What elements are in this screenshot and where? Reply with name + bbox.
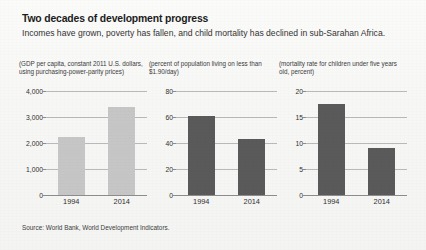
y-axis-mortality: 05101520	[279, 91, 305, 195]
chart-panel-gdp: (GDP per capita, constant 2011 U.S. doll…	[19, 60, 149, 218]
x-tick-label: 2014	[114, 197, 130, 206]
y-tick-mark	[43, 195, 46, 196]
y-tick-label: 3,000	[26, 114, 43, 121]
y-tick-label: 15	[295, 114, 303, 121]
x-tick-label: 1994	[63, 197, 79, 206]
x-axis-gdp: 19942014	[46, 197, 147, 211]
figure-title: Two decades of development progress	[22, 13, 208, 24]
y-tick-mark	[173, 195, 176, 196]
chart-panels: (GDP per capita, constant 2011 U.S. doll…	[19, 60, 411, 218]
y-axis-poverty: 020406080	[149, 91, 175, 195]
bars-mortality	[306, 91, 407, 195]
y-tick-label: 40	[165, 140, 173, 147]
y-tick-label: 20	[295, 88, 303, 95]
x-axis-line	[176, 195, 277, 196]
x-axis-line	[46, 195, 147, 196]
figure-container: Two decades of development progress Inco…	[0, 0, 426, 250]
bar-1994	[188, 116, 215, 195]
bars-gdp	[46, 91, 147, 195]
y-tick-label: 1,000	[26, 166, 43, 173]
bar-2014	[368, 148, 395, 195]
panel-caption-gdp: (GDP per capita, constant 2011 U.S. doll…	[19, 60, 143, 76]
plot-area-gdp: 01,0002,0003,0004,000 19942014	[19, 91, 149, 218]
y-tick-label: 20	[165, 166, 173, 173]
bar-2014	[108, 107, 135, 195]
chart-panel-mortality: (mortality rate for children under five …	[279, 60, 409, 218]
bars-poverty	[176, 91, 277, 195]
bar-2014	[238, 139, 265, 195]
panel-caption-poverty: (percent of population living on less th…	[149, 60, 273, 76]
y-tick-label: 10	[295, 140, 303, 147]
y-tick-label: 4,000	[26, 88, 43, 95]
x-tick-label: 1994	[323, 197, 339, 206]
x-axis-line	[306, 195, 407, 196]
x-axis-mortality: 19942014	[306, 197, 407, 211]
x-tick-label: 2014	[374, 197, 390, 206]
plot-area-mortality: 05101520 19942014	[279, 91, 409, 218]
panel-caption-mortality: (mortality rate for children under five …	[279, 60, 403, 76]
plot-area-poverty: 020406080 19942014	[149, 91, 279, 218]
bar-1994	[318, 104, 345, 195]
chart-panel-poverty: (percent of population living on less th…	[149, 60, 279, 218]
x-tick-label: 1994	[193, 197, 209, 206]
y-tick-mark	[303, 195, 306, 196]
x-tick-label: 2014	[244, 197, 260, 206]
source-note: Source: World Bank, World Development In…	[22, 224, 170, 231]
y-tick-label: 60	[165, 114, 173, 121]
figure-subtitle: Incomes have grown, poverty has fallen, …	[22, 28, 406, 40]
y-tick-label: 2,000	[26, 140, 43, 147]
x-axis-poverty: 19942014	[176, 197, 277, 211]
y-tick-label: 80	[165, 88, 173, 95]
y-axis-gdp: 01,0002,0003,0004,000	[19, 91, 45, 195]
bar-1994	[58, 137, 85, 196]
